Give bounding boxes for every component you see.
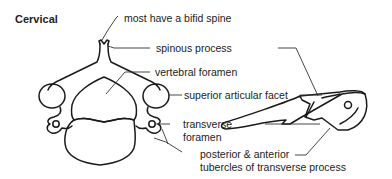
label-transverse-foramen-line2: foramen (183, 131, 222, 143)
label-tubercles-line2: tubercles of transverse process (200, 161, 346, 173)
label-transverse-foramen-line1: transverse (183, 118, 232, 130)
label-tubercles-line1: posterior & anterior (200, 148, 289, 160)
label-vertebral-foramen: vertebral foramen (155, 66, 237, 78)
label-spinous-process: spinous process (156, 42, 232, 54)
label-superior-articular-facet: superior articular facet (184, 89, 288, 101)
cervical-vertebra-diagram: Cervical (0, 0, 392, 179)
superior-view (39, 40, 169, 165)
label-bifid-spine: most have a bifid spine (124, 12, 231, 24)
